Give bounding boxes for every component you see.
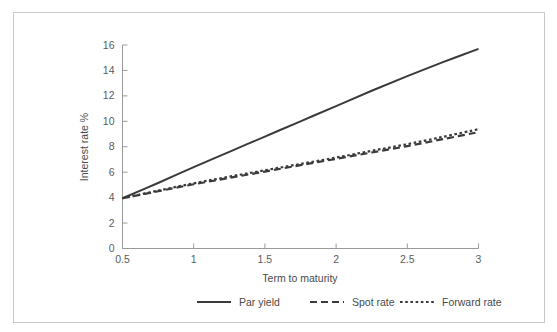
series-line-par-yield (123, 49, 479, 198)
y-axis-title: Interest rate % (78, 113, 90, 181)
legend-label-spot-rate: Spot rate (352, 296, 395, 308)
y-tick-label: 16 (103, 39, 115, 51)
x-tick-label: 1.5 (258, 253, 273, 265)
y-tick-label: 14 (103, 64, 115, 76)
series-line-spot-rate (123, 132, 479, 198)
x-tick-label: 1 (191, 253, 197, 265)
x-axis-ticks: 0.511.522.53 (115, 244, 481, 265)
legend-label-par-yield: Par yield (239, 296, 280, 308)
chart-legend: Par yieldSpot rateForward rate (197, 296, 502, 308)
x-tick-label: 0.5 (115, 253, 130, 265)
interest-rate-term-structure-chart: 0246810121416 0.511.522.53 Interest rate… (0, 0, 557, 332)
data-series-group (123, 49, 479, 198)
x-tick-label: 3 (476, 253, 482, 265)
axes-group (123, 45, 479, 249)
y-tick-label: 4 (109, 191, 115, 203)
y-axis-ticks: 0246810121416 (103, 39, 128, 255)
x-tick-label: 2 (333, 253, 339, 265)
y-tick-label: 10 (103, 115, 115, 127)
y-tick-label: 6 (109, 166, 115, 178)
legend-label-forward-rate: Forward rate (442, 296, 502, 308)
y-tick-label: 2 (109, 217, 115, 229)
series-line-forward-rate (123, 129, 479, 198)
x-tick-label: 2.5 (400, 253, 415, 265)
x-axis-title: Term to maturity (262, 272, 338, 284)
y-tick-label: 8 (109, 140, 115, 152)
y-tick-label: 12 (103, 89, 115, 101)
y-tick-label: 0 (109, 242, 115, 254)
